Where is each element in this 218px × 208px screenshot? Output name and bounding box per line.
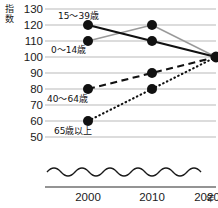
- y-axis-title: 指 数: [5, 3, 14, 24]
- marker-15-39-2010: [147, 20, 157, 30]
- y-axis-title-char-2: 数: [5, 13, 14, 24]
- index-line-chart: 指 数 130 120 110 100 90 80 70 60 50: [0, 0, 218, 208]
- series-label-0-14: 0～14歳: [51, 44, 86, 55]
- marker-40-64-2000: [83, 84, 93, 94]
- marker-65-up-2000: [83, 116, 93, 126]
- series-label-15-39: 15～39歳: [58, 10, 99, 21]
- x-axis-unit-label: 年: [206, 193, 215, 203]
- y-tick-label-90: 90: [30, 67, 43, 79]
- series-label-40-64: 40～64歳: [47, 93, 88, 104]
- y-tick-label-120: 120: [24, 19, 43, 31]
- x-tick-label-2010: 2010: [139, 191, 165, 203]
- x-axis-tick-labels: 2000 2010 2020 年: [75, 191, 218, 203]
- y-tick-label-130: 130: [24, 3, 43, 15]
- y-tick-label-80: 80: [30, 83, 43, 95]
- marker-40-64-2010: [147, 68, 157, 78]
- y-tick-label-100: 100: [24, 51, 43, 63]
- marker-0-14-2000: [83, 20, 93, 30]
- series-label-65-up: 65歳以上: [54, 125, 92, 136]
- marker-0-14-2010: [147, 36, 157, 46]
- x-tick-label-2000: 2000: [75, 191, 101, 203]
- y-axis-title-char-1: 指: [5, 3, 14, 14]
- y-tick-label-50: 50: [30, 131, 43, 143]
- chart-canvas: 指 数 130 120 110 100 90 80 70 60 50: [0, 0, 218, 208]
- y-tick-label-110: 110: [25, 35, 43, 47]
- y-tick-label-60: 60: [30, 115, 43, 127]
- y-tick-label-70: 70: [30, 99, 43, 111]
- marker-65-up-2010: [147, 84, 157, 94]
